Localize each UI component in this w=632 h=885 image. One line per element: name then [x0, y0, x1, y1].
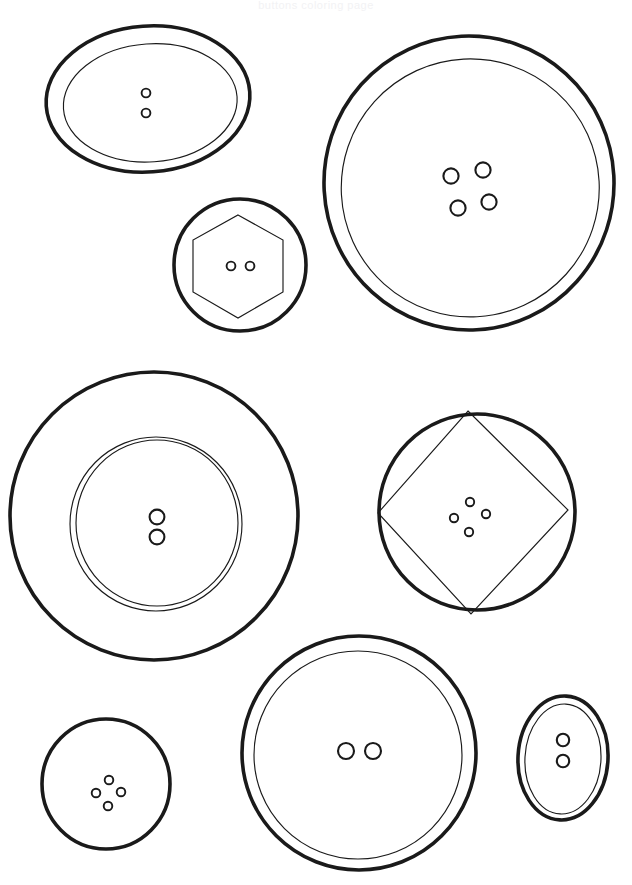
button-5-diamond-inset-four-hole[interactable]	[378, 411, 575, 614]
button-3-hexagon-inset	[193, 215, 283, 318]
button-8-hole	[557, 734, 569, 746]
button-1-hole	[142, 89, 151, 98]
button-3-hole	[246, 262, 255, 271]
buttons-line-art-artboard	[0, 0, 632, 885]
button-5-hole	[482, 510, 490, 518]
button-1-outer-outline	[41, 19, 255, 179]
button-4-hole	[150, 510, 165, 525]
coloring-page-canvas: buttons coloring page	[0, 0, 632, 885]
button-6-hole	[105, 776, 114, 785]
button-6-hole	[104, 802, 113, 811]
button-2-outer-outline	[317, 29, 622, 338]
button-7-hole	[338, 743, 354, 759]
button-7-hole	[365, 743, 381, 759]
button-8-hole	[557, 755, 569, 767]
button-2-hole	[450, 200, 465, 215]
button-4-hole	[150, 530, 165, 545]
button-2-hole	[475, 162, 490, 177]
button-5-hole	[466, 498, 474, 506]
button-8-vertical-oval-two-hole[interactable]	[515, 694, 611, 823]
button-3-hole	[227, 262, 236, 271]
button-5-outer-outline	[379, 414, 575, 610]
button-7-inner-outline	[254, 651, 462, 859]
button-6-small-round-four-hole[interactable]	[42, 719, 170, 849]
button-1-oval-two-hole[interactable]	[41, 19, 255, 179]
button-2-inner-outline	[335, 52, 606, 323]
button-1-inner-outline	[59, 38, 241, 168]
button-5-hole	[450, 514, 458, 522]
button-6-hole	[92, 789, 101, 798]
button-2-hole	[481, 194, 496, 209]
button-7-round-ring-two-hole[interactable]	[242, 636, 476, 870]
button-2-large-round-four-hole[interactable]	[317, 29, 622, 338]
button-2-hole	[443, 168, 458, 183]
button-5-hole	[465, 528, 473, 536]
button-3-outer-outline	[174, 199, 306, 331]
button-1-hole	[142, 109, 151, 118]
button-7-outer-outline	[242, 636, 476, 870]
button-4-double-ring-two-hole[interactable]	[10, 372, 298, 660]
button-6-hole	[117, 788, 126, 797]
button-3-hexagon-inset-two-hole[interactable]	[174, 199, 306, 331]
